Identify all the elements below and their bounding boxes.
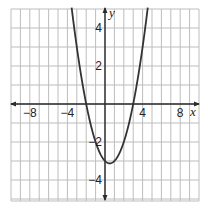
y-tick-label: −2 (88, 135, 102, 149)
x-tick-label: −8 (23, 106, 37, 120)
y-axis-arrow-icon (103, 7, 108, 13)
y-tick-label: 2 (95, 59, 102, 73)
graph: −8−44842−2−4 x y (0, 0, 208, 211)
axes (10, 7, 200, 201)
x-axis-label: x (189, 104, 196, 119)
x-tick-label: −4 (61, 106, 75, 120)
x-tick-label: 4 (139, 106, 146, 120)
y-axis-label: y (107, 5, 115, 20)
y-tick-label: 4 (95, 21, 102, 35)
x-tick-label: 8 (177, 106, 184, 120)
y-tick-label: −4 (88, 173, 102, 187)
y-axis-down-arrow-icon (103, 195, 108, 201)
